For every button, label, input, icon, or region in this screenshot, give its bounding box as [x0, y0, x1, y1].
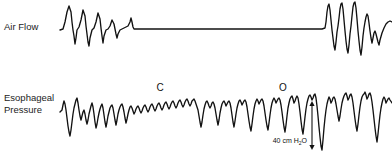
scale-annotation-label: 40 cm H2O [273, 137, 308, 146]
airflow-channel-label: Air Flow [4, 21, 38, 32]
esophageal-channel-label-line2: Pressure [4, 104, 42, 115]
waveform-canvas: Air Flow Esophageal Pressure C O 40 cm H… [0, 0, 392, 161]
scale-arrow-head-up [309, 101, 314, 106]
esophageal-channel-label-line1: Esophageal [4, 92, 54, 103]
marker-central-apnea: C [156, 82, 163, 93]
esophageal-pressure-waveform-trace [60, 92, 392, 150]
scale-arrow-head-down [309, 145, 314, 150]
marker-obstructive-apnea: O [279, 82, 287, 93]
airflow-waveform-trace [60, 2, 392, 55]
scale-bar-arrow [309, 101, 314, 150]
